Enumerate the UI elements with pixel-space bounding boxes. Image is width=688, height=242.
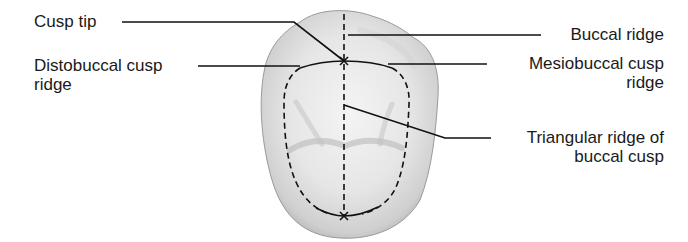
label-triangular-line1: Triangular ridge of: [527, 128, 664, 147]
label-triangular-ridge: Triangular ridge of buccal cusp: [527, 128, 664, 166]
label-buccal-ridge: Buccal ridge: [570, 25, 664, 44]
label-mesiobuccal-line2: ridge: [529, 73, 664, 92]
label-distobuccal-line1: Distobuccal cusp: [34, 56, 163, 75]
label-distobuccal-line2: ridge: [34, 75, 163, 94]
label-buccal-ridge-text: Buccal ridge: [570, 25, 664, 44]
label-mesiobuccal-cusp-ridge: Mesiobuccal cusp ridge: [529, 54, 664, 92]
label-mesiobuccal-line1: Mesiobuccal cusp: [529, 54, 664, 73]
label-cusp-tip: Cusp tip: [34, 12, 96, 31]
label-distobuccal-cusp-ridge: Distobuccal cusp ridge: [34, 56, 163, 94]
tooth-crown-outline: [261, 11, 438, 239]
label-cusp-tip-text: Cusp tip: [34, 12, 96, 31]
tooth-diagram: Cusp tip Distobuccal cusp ridge Buccal r…: [0, 0, 688, 242]
label-triangular-line2: buccal cusp: [527, 147, 664, 166]
